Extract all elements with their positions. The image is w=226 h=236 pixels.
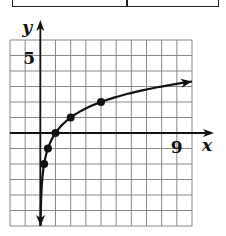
data-point — [40, 160, 48, 168]
data-point — [44, 145, 52, 153]
chart: x y 9 5 — [0, 0, 226, 236]
data-point — [52, 129, 60, 137]
y-axis-label: y — [21, 17, 33, 37]
x-axis-label: x — [201, 135, 213, 155]
y-tick-label: 5 — [23, 48, 35, 68]
x-tick-label: 9 — [171, 137, 183, 157]
data-point — [67, 114, 75, 122]
data-point — [97, 98, 105, 106]
